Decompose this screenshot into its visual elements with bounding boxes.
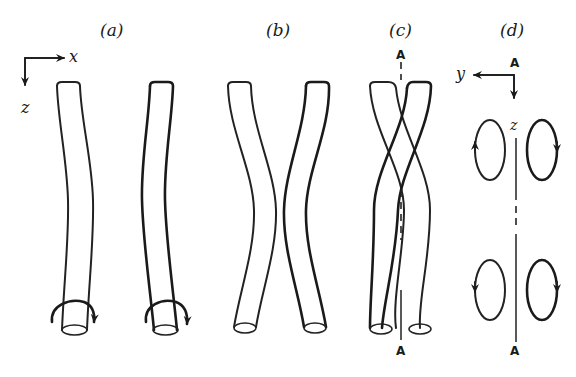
axis-label-x: x: [69, 47, 78, 66]
tube-a-left: [52, 82, 94, 335]
axis-label-y: y: [456, 64, 465, 83]
axes-yz-icon: [474, 75, 514, 98]
twisted-tubes-c: [370, 62, 431, 340]
panel-label-d: (d): [500, 20, 524, 40]
panel-label-b: (b): [266, 20, 290, 40]
tube-a-right: [142, 82, 187, 335]
axis-marker-c-top: A: [396, 48, 405, 62]
tube-b-right: [284, 82, 329, 333]
panel-label-c: (c): [389, 20, 412, 40]
axis-marker-d-bottom: A: [510, 344, 519, 358]
panel-label-a: (a): [100, 20, 123, 40]
axis-label-z-a: z: [21, 98, 29, 117]
axes-xz-icon: [25, 58, 64, 85]
axis-label-z-d: z: [510, 117, 517, 133]
tube-b-left: [228, 82, 276, 333]
axis-marker-d-top: A: [510, 56, 519, 70]
axis-marker-c-bottom: A: [396, 344, 405, 358]
diagram-canvas: [0, 0, 576, 377]
